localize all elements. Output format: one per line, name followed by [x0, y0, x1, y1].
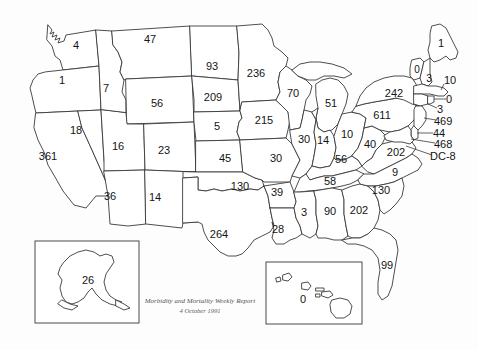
- state-label-NH: 3: [426, 73, 432, 84]
- state-label-ME: 1: [438, 37, 444, 49]
- state-label-KS: 45: [219, 152, 231, 164]
- state-label-IN: 14: [317, 134, 329, 146]
- state-label-WA: 4: [73, 39, 79, 51]
- state-label-OH: 10: [341, 128, 353, 140]
- state-label-AR: 39: [271, 186, 283, 198]
- state-label-KY: 56: [335, 153, 347, 165]
- state-label-MO: 30: [270, 152, 282, 164]
- state-label-NC: 9: [392, 166, 398, 178]
- state-shape-OR: [30, 66, 101, 113]
- state-label-PA: 611: [373, 109, 391, 121]
- hawaii-island-molokai: [316, 288, 324, 291]
- state-label-IA: 215: [255, 114, 273, 126]
- state-label-OK: 130: [231, 180, 249, 192]
- state-label-NJ: 469: [434, 115, 452, 127]
- state-shape-CT: [414, 94, 428, 106]
- state-label-NM: 14: [149, 191, 161, 203]
- state-shape-MI-UP: [292, 62, 352, 80]
- state-label-AK: 26: [82, 274, 94, 286]
- us-map-figure: 4 1 361 18 7 47 56 16 36 23 14 93 209 5 …: [0, 0, 478, 350]
- state-label-VT: 0: [414, 64, 420, 75]
- state-label-AZ: 36: [104, 190, 116, 202]
- state-label-DC: DC-8: [430, 150, 456, 162]
- caption-line-1: Morbidity and Mortality Weekly Report: [145, 297, 256, 305]
- hawaii-island-lanai: [316, 294, 320, 297]
- caption-line-2: 4 October 1991: [145, 306, 256, 315]
- state-label-ND: 93: [206, 60, 218, 72]
- state-label-MD: 468: [434, 138, 452, 150]
- state-label-LA: 28: [272, 223, 284, 235]
- state-label-CA: 361: [39, 150, 57, 162]
- state-label-MA: 10: [444, 74, 456, 86]
- state-label-TX: 264: [210, 228, 228, 240]
- state-label-MT: 47: [144, 33, 156, 45]
- state-label-NE: 5: [214, 120, 220, 132]
- state-label-MI: 51: [325, 97, 337, 109]
- leader-line-md: [411, 139, 435, 143]
- state-label-OR: 1: [59, 74, 65, 86]
- state-label-VA: 202: [387, 146, 405, 158]
- state-label-WI: 70: [287, 87, 299, 99]
- state-label-TN: 58: [324, 175, 336, 187]
- state-shape-RI: [428, 96, 434, 104]
- state-label-CO: 23: [158, 144, 170, 156]
- hawaii-island-hawaii: [330, 298, 352, 318]
- state-label-SD: 209: [204, 91, 222, 103]
- state-label-WV: 40: [364, 138, 376, 150]
- state-label-NY: 242: [385, 87, 403, 99]
- state-label-GA: 202: [350, 204, 368, 216]
- state-label-CT: 3: [437, 103, 443, 115]
- state-label-NV: 18: [70, 124, 82, 136]
- state-label-MS: 3: [301, 206, 307, 218]
- state-label-MN: 236: [247, 67, 265, 79]
- state-label-IL: 30: [298, 133, 310, 145]
- figure-caption: Morbidity and Mortality Weekly Report 4 …: [145, 296, 256, 316]
- state-label-ID: 7: [103, 82, 109, 94]
- leader-line-ct: [428, 104, 437, 108]
- state-label-UT: 16: [112, 140, 124, 152]
- state-label-HI: 0: [300, 293, 306, 305]
- state-label-SC: 130: [372, 184, 390, 196]
- hawaii-island-niihau: [276, 277, 281, 282]
- state-label-AL: 90: [324, 205, 336, 217]
- state-label-WY: 56: [151, 97, 163, 109]
- state-label-FL: 99: [381, 259, 393, 271]
- state-label-RI: 0: [446, 93, 452, 105]
